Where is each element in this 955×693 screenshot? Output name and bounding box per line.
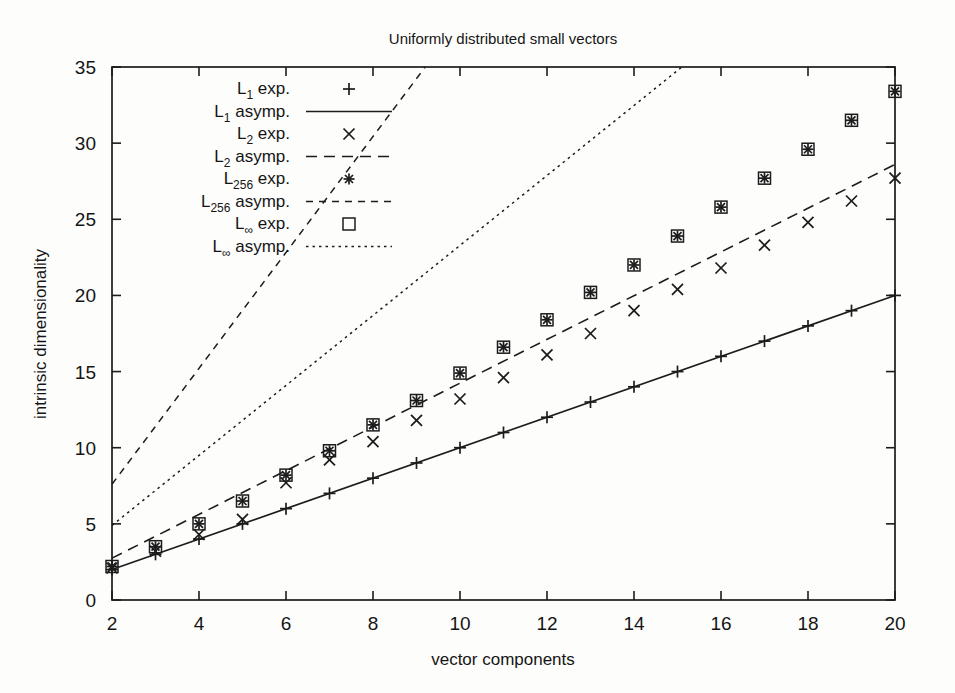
data-point [542, 314, 553, 325]
x-tick-label: 18 [797, 613, 818, 634]
data-point [846, 196, 857, 207]
series-points-2 [107, 173, 901, 574]
y-tick-label: 25 [75, 209, 96, 230]
x-tick-label: 12 [536, 613, 557, 634]
legend-label: L1 asymp. [214, 102, 290, 125]
y-tick-label: 10 [75, 438, 96, 459]
data-point [237, 496, 248, 507]
series-line-3 [112, 164, 895, 558]
y-axis-ticks: 05101520253035 [75, 57, 895, 611]
legend-label: L2 asymp. [214, 147, 290, 170]
data-point [498, 342, 509, 353]
legend-label: L∞ exp. [235, 214, 290, 237]
data-point [803, 217, 814, 228]
data-point [672, 284, 683, 295]
legend-label: L1 exp. [237, 79, 290, 102]
data-point [672, 231, 683, 242]
scatter-plot: Uniformly distributed small vectors 2468… [0, 0, 955, 693]
plot-frame [112, 67, 895, 600]
y-tick-label: 30 [75, 133, 96, 154]
data-point [455, 368, 466, 379]
data-point [324, 445, 335, 456]
y-tick-label: 5 [85, 514, 96, 535]
x-tick-label: 10 [449, 613, 470, 634]
legend-entry-1: L1 asymp. [214, 102, 392, 125]
y-tick-label: 0 [85, 590, 96, 611]
data-point [803, 144, 814, 155]
data-point [281, 470, 292, 481]
data-point [368, 419, 379, 430]
data-point [585, 328, 596, 339]
chart-figure: Uniformly distributed small vectors 2468… [0, 0, 955, 693]
data-point [107, 561, 118, 572]
data-point [411, 415, 422, 426]
legend-marker-cross [344, 129, 355, 140]
legend-marker-plus [343, 83, 355, 95]
legend-marker-square [343, 218, 355, 230]
data-point [368, 436, 379, 447]
data-point [411, 395, 422, 406]
chart-legend: L1 exp.L1 asymp.L2 exp.L2 asymp.L256 exp… [201, 79, 392, 260]
data-point [629, 259, 640, 270]
x-tick-label: 14 [623, 613, 645, 634]
data-point [716, 263, 727, 274]
x-tick-label: 20 [884, 613, 905, 634]
x-tick-label: 4 [194, 613, 205, 634]
data-point [759, 173, 770, 184]
x-tick-label: 8 [368, 613, 379, 634]
x-tick-label: 16 [710, 613, 731, 634]
legend-label: L256 exp. [224, 169, 290, 192]
legend-entry-2: L2 exp. [237, 124, 355, 147]
legend-label: L2 exp. [237, 124, 290, 147]
data-point [759, 240, 770, 251]
data-point [455, 393, 466, 404]
data-point [498, 372, 509, 383]
data-series-layer [106, 67, 901, 576]
x-axis-label: vector components [431, 650, 575, 669]
x-tick-label: 6 [281, 613, 292, 634]
y-tick-label: 35 [75, 57, 96, 78]
y-axis-label: intrinsic dimensionality [31, 248, 50, 419]
legend-entry-5: L256 asymp. [201, 192, 392, 215]
legend-entry-6: L∞ exp. [235, 214, 355, 237]
legend-entry-3: L2 asymp. [214, 147, 392, 170]
data-point [629, 305, 640, 316]
y-tick-label: 15 [75, 362, 96, 383]
series-line-1 [112, 295, 895, 569]
legend-entry-7: L∞ asymp. [212, 237, 392, 260]
data-point [890, 86, 901, 97]
chart-title: Uniformly distributed small vectors [389, 30, 617, 47]
legend-label: L256 asymp. [201, 192, 290, 215]
legend-label: L∞ asymp. [212, 237, 290, 260]
data-point [716, 202, 727, 213]
x-tick-label: 2 [107, 613, 118, 634]
data-point [194, 518, 205, 529]
data-point [585, 287, 596, 298]
data-point [150, 541, 161, 552]
data-point [846, 115, 857, 126]
legend-entry-0: L1 exp. [237, 79, 355, 102]
y-tick-label: 20 [75, 285, 96, 306]
data-point [542, 349, 553, 360]
legend-marker-star [344, 174, 355, 185]
